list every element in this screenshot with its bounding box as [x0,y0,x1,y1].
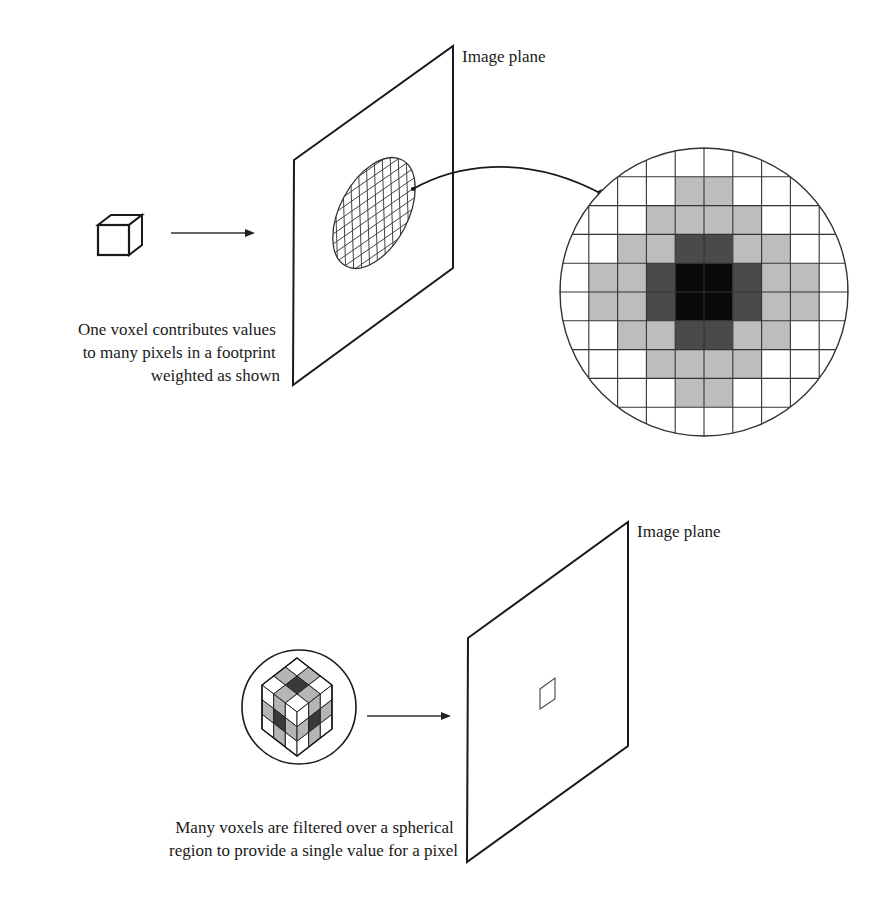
voxel-projection-diagram: Image plane [0,0,880,912]
footprint-cell [646,177,675,206]
footprint-cell [675,350,704,379]
image-plane-label: Image plane [462,47,546,66]
footprint-cell [618,292,647,321]
footprint-cell [589,378,618,407]
footprint-cell [646,378,675,407]
voxel-cube-icon [98,215,142,255]
footprint-cell [675,263,704,292]
footprint-cell [762,234,791,263]
footprint-cell [675,206,704,235]
footprint-cell [790,234,819,263]
footprint-cell [560,378,589,407]
footprint-cell [704,206,733,235]
top-panel: Image plane [78,46,860,445]
footprint-cell [675,148,704,177]
bottom-caption: Many voxels are filtered over a spherica… [169,818,458,860]
footprint-cell [618,206,647,235]
footprint-cell [733,206,762,235]
footprint-cell [589,177,618,206]
footprint-cell [646,206,675,235]
top-caption: One voxel contributes values to many pix… [78,320,281,385]
footprint-cell [733,350,762,379]
footprint-cell [762,350,791,379]
footprint-cell [790,407,819,436]
footprint-cell [790,263,819,292]
footprint-cell [762,263,791,292]
projection-arrow-bottom [367,712,451,720]
footprint-cell [646,234,675,263]
bottom-panel: Image plane Many voxels are filtered ove… [169,522,720,862]
projection-arrow [171,229,255,237]
footprint-cell [704,263,733,292]
footprint-cell [618,234,647,263]
footprint-cell [675,292,704,321]
footprint-cell [819,148,848,177]
footprint-cell [790,148,819,177]
footprint-cell [618,350,647,379]
footprint-cell [762,206,791,235]
footprint-cell [704,177,733,206]
footprint-cell [819,407,848,436]
footprint-cell [790,177,819,206]
footprint-cell [733,234,762,263]
footprint-cell [733,292,762,321]
footprint-cell [560,263,589,292]
footprint-cell [790,321,819,350]
footprint-cell [762,292,791,321]
footprint-cell [704,378,733,407]
footprint-cell [790,206,819,235]
image-plane-label-bottom: Image plane [637,522,721,541]
footprint-cell [704,407,733,436]
footprint-cell [733,177,762,206]
footprint-cell [589,407,618,436]
footprint-cell [589,350,618,379]
footprint-cell [762,321,791,350]
footprint-cell [704,234,733,263]
footprint-cell [560,292,589,321]
footprint-cell [704,321,733,350]
footprint-cell [675,177,704,206]
filtered-voxel-sphere-icon [242,650,356,764]
footprint-cell [618,177,647,206]
footprint-cell [819,263,848,292]
single-pixel-icon [540,678,555,709]
footprint-cell [704,292,733,321]
footprint-cell [819,177,848,206]
footprint-cell [733,263,762,292]
footprint-cell [675,378,704,407]
footprint-cell [589,292,618,321]
footprint-cell [704,148,733,177]
footprint-cell [819,292,848,321]
footprint-cell [675,407,704,436]
footprint-cell [790,292,819,321]
footprint-cell [646,292,675,321]
footprint-cell [589,206,618,235]
footprint-cell [790,350,819,379]
footprint-cell [762,177,791,206]
footprint-cell [589,234,618,263]
weighted-footprint-magnified [550,140,860,445]
footprint-cell [704,350,733,379]
footprint-cell [733,321,762,350]
footprint-cell [589,321,618,350]
magnify-connector [411,167,607,199]
footprint-cell [675,321,704,350]
footprint-cell [618,263,647,292]
footprint-cell [762,378,791,407]
footprint-cell [646,263,675,292]
footprint-cell [618,378,647,407]
footprint-cell [560,407,589,436]
footprint-cell [646,321,675,350]
footprint-cell [819,378,848,407]
footprint-cell [560,148,589,177]
footprint-cell [790,378,819,407]
footprint-cell [589,263,618,292]
footprint-cell [646,350,675,379]
footprint-cell [733,378,762,407]
footprint-cell [618,321,647,350]
footprint-cell [675,234,704,263]
footprint-cell [589,148,618,177]
image-plane [293,46,453,385]
